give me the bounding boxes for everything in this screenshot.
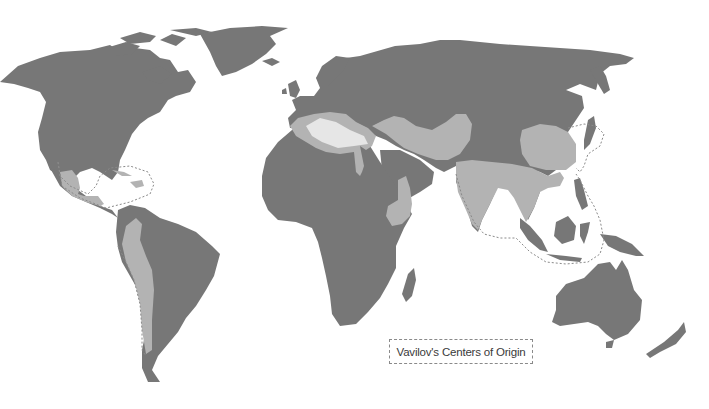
madagascar	[402, 268, 416, 302]
map-legend: Vavilov's Centers of Origin	[389, 339, 533, 364]
sulawesi	[580, 222, 590, 244]
greenland	[200, 26, 288, 76]
center-mexico	[60, 170, 104, 206]
australia	[552, 260, 642, 340]
japan	[584, 116, 596, 150]
iceland	[262, 58, 280, 66]
philippines	[574, 178, 588, 210]
world-map	[0, 0, 709, 409]
british-isles	[282, 80, 300, 98]
map-title: Vavilov's Centers of Origin	[397, 346, 526, 358]
borneo	[554, 216, 576, 244]
arctic-islands	[106, 28, 212, 56]
tasmania	[606, 340, 614, 348]
new-guinea	[600, 234, 644, 256]
center-caribbean-islands	[112, 170, 144, 188]
new-zealand	[646, 322, 686, 358]
north-america	[0, 45, 196, 188]
